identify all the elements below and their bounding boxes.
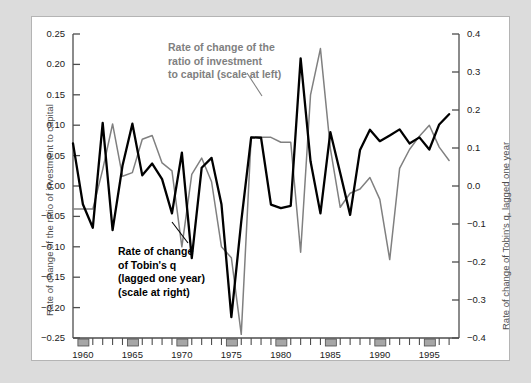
- y-axis-left-tick-label: 0.15: [21, 89, 65, 100]
- y-axis-right-tick-label: 0.4: [467, 28, 511, 39]
- annotation-gray-line3: to capital (scale at left): [168, 68, 281, 82]
- x-axis-tick-label: 1985: [307, 349, 353, 360]
- y-axis-right-tick-label: −0.2: [467, 256, 511, 267]
- y-axis-left-tick-label: 0.10: [21, 119, 65, 130]
- y-axis-right-tick-label: 0.0: [467, 180, 511, 191]
- annotation-gray-line1: Rate of change of the: [168, 41, 281, 55]
- x-axis-tick-label: 1970: [159, 349, 205, 360]
- x-axis-tick-label: 1965: [109, 349, 155, 360]
- annotation-black-line2: of Tobin's q: [118, 259, 205, 273]
- annotation-gray-line2: ratio of investment: [168, 55, 281, 69]
- x-axis-tick-label: 1975: [208, 349, 254, 360]
- x-axis-tick-label: 1980: [258, 349, 304, 360]
- y-axis-right-tick-label: −0.3: [467, 294, 511, 305]
- x-axis-tick-label: 1990: [357, 349, 403, 360]
- y-axis-left-tick-label: −0.15: [21, 271, 65, 282]
- x-axis-tick-label: 1995: [406, 349, 452, 360]
- y-axis-left-tick-label: −0.05: [21, 210, 65, 221]
- x-axis-tick-label: 1960: [60, 349, 106, 360]
- annotation-black-line3: (lagged one year): [118, 272, 205, 286]
- y-axis-left-tick-label: −0.25: [21, 332, 65, 343]
- y-axis-right-tick-label: 0.3: [467, 66, 511, 77]
- y-axis-right-tick-label: 0.1: [467, 142, 511, 153]
- y-axis-left-tick-label: −0.20: [21, 302, 65, 313]
- annotation-tobins-q: Rate of change of Tobin's q (lagged one …: [118, 245, 205, 299]
- y-axis-left-tick-label: −0.10: [21, 241, 65, 252]
- y-axis-left-tick-label: 0.00: [21, 180, 65, 191]
- annotation-black-line4: (scale at right): [118, 286, 205, 300]
- y-axis-left-tick-label: 0.05: [21, 150, 65, 161]
- annotation-black-line1: Rate of change: [118, 245, 205, 259]
- y-axis-left-tick-label: 0.20: [21, 58, 65, 69]
- y-axis-right-tick-label: 0.2: [467, 104, 511, 115]
- annotation-investment-capital: Rate of change of the ratio of investmen…: [168, 41, 281, 82]
- y-axis-right-tick-label: −0.1: [467, 218, 511, 229]
- y-axis-left-tick-label: 0.25: [21, 28, 65, 39]
- y-axis-right-tick-label: −0.4: [467, 332, 511, 343]
